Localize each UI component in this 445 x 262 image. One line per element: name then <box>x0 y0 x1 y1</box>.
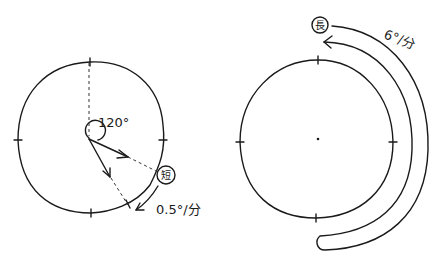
dashed-line-minute <box>111 178 128 205</box>
dashed-line-hour <box>128 157 160 173</box>
short-hand-badge: 短 <box>161 169 171 181</box>
left-clock: 120° 短 0.5°/分 <box>14 58 201 217</box>
speed-label: 0.5°/分 <box>156 202 201 217</box>
angle-label: 120° <box>98 115 129 130</box>
hour-hand-arrow <box>89 139 128 157</box>
long-hand-badge: 長 <box>315 20 325 31</box>
left-clock-face <box>18 62 164 213</box>
clock-diagram: 120° 短 0.5°/分 長 6°/分 <box>0 0 445 262</box>
minute-hand-arrow <box>89 139 110 177</box>
right-clock: 長 6°/分 <box>236 17 428 250</box>
right-clock-face <box>240 60 393 218</box>
center-dot <box>317 138 320 141</box>
